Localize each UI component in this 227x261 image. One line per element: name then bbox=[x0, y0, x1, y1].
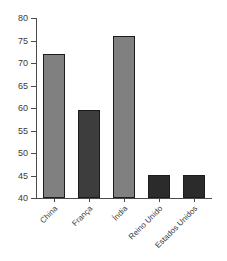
y-axis-tick bbox=[31, 131, 36, 132]
y-axis-tick-label: 50 bbox=[18, 149, 28, 158]
y-axis-tick-label: 45 bbox=[18, 171, 28, 180]
bar-chart-figure: 404550556065707580 ChinaFrançaÍndiaReino… bbox=[0, 0, 227, 261]
plot-area: 404550556065707580 ChinaFrançaÍndiaReino… bbox=[36, 18, 212, 198]
y-axis-tick-label: 40 bbox=[18, 194, 28, 203]
x-axis-category-label: China bbox=[38, 204, 59, 225]
y-axis-tick bbox=[31, 108, 36, 109]
bar bbox=[43, 54, 65, 198]
y-axis-tick bbox=[31, 86, 36, 87]
x-axis-tick bbox=[124, 198, 125, 202]
y-axis-tick-label: 70 bbox=[18, 59, 28, 68]
y-axis-tick bbox=[31, 18, 36, 19]
y-axis-tick bbox=[31, 41, 36, 42]
y-axis-tick bbox=[31, 198, 36, 199]
y-axis-tick bbox=[31, 63, 36, 64]
y-axis-tick bbox=[31, 176, 36, 177]
bar bbox=[148, 175, 170, 198]
y-axis-tick-label: 60 bbox=[18, 104, 28, 113]
x-axis-category-label: Reino Unido bbox=[127, 204, 164, 241]
x-axis-tick bbox=[194, 198, 195, 202]
y-axis-tick-label: 75 bbox=[18, 36, 28, 45]
x-axis-tick bbox=[89, 198, 90, 202]
y-axis-tick-label: 80 bbox=[18, 14, 28, 23]
y-axis-line bbox=[36, 18, 37, 199]
clipped-caption-sliver bbox=[0, 0, 227, 6]
bar bbox=[113, 36, 135, 198]
x-axis-tick bbox=[54, 198, 55, 202]
y-axis-tick bbox=[31, 153, 36, 154]
x-axis-category-label: Índia bbox=[111, 204, 130, 223]
x-axis-category-label: França bbox=[70, 204, 94, 228]
y-axis-tick-label: 65 bbox=[18, 81, 28, 90]
bar bbox=[78, 110, 100, 198]
x-axis-tick bbox=[159, 198, 160, 202]
bar bbox=[183, 175, 205, 198]
y-axis-tick-label: 55 bbox=[18, 126, 28, 135]
